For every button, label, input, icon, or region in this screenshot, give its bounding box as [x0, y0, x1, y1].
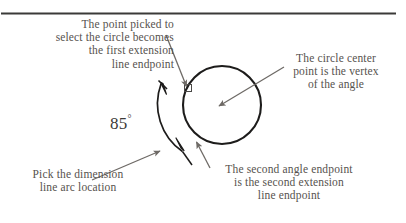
- callout-dimension-line-arc-location: Pick the dimension line arc location: [14, 168, 142, 194]
- angle-value: 85: [110, 114, 128, 133]
- callout-second-extension-line-endpoint: The second angle endpoint is the second …: [196, 163, 382, 203]
- circle-outline: [183, 66, 261, 144]
- figure-page: The point picked to select the circle be…: [0, 0, 406, 223]
- extension-line-second: [183, 152, 193, 166]
- angle-dimension-label: 85°: [110, 110, 132, 132]
- callout-first-extension-line-endpoint: The point picked to select the circle be…: [28, 18, 174, 71]
- degree-symbol: °: [128, 113, 132, 124]
- callout-circle-center-vertex: The circle center point is the vertex of…: [272, 52, 400, 92]
